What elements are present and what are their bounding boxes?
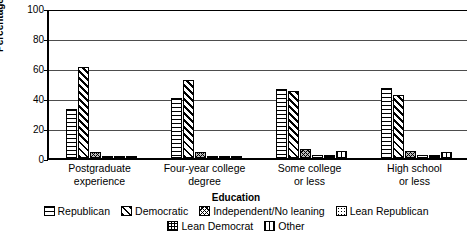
- bar: [126, 156, 137, 158]
- plot-area: [47, 10, 467, 160]
- legend-label: Independent/No leaning: [213, 205, 325, 217]
- legend-label: Lean Democrat: [181, 220, 253, 232]
- y-tick-20: 20: [10, 125, 44, 135]
- legend-item[interactable]: Independent/No leaning: [199, 205, 325, 217]
- x-axis-label-line: High school: [362, 162, 467, 175]
- x-axis-label-line: or less: [362, 175, 467, 188]
- bar-group: [259, 8, 364, 158]
- legend-label: Democratic: [135, 205, 188, 217]
- bar: [231, 156, 242, 158]
- bar-group: [154, 8, 259, 158]
- x-axis-label-line: Postgraduate: [47, 162, 152, 175]
- y-tick-60: 60: [10, 65, 44, 75]
- y-tick-80: 80: [10, 35, 44, 45]
- x-axis-labels: PostgraduateexperienceFour-year colleged…: [47, 162, 467, 194]
- bar: [183, 80, 194, 158]
- legend-swatch-icon: [121, 206, 132, 216]
- chart-container: 100 80 60 40 20 0 Percentage Postgraduat…: [0, 0, 472, 242]
- legend-row-2: Lean DemocratOther: [167, 220, 304, 232]
- x-axis-label: Some collegeor less: [257, 162, 362, 187]
- bar: [207, 156, 218, 158]
- bar: [78, 67, 89, 159]
- bar: [102, 156, 113, 158]
- legend-swatch-icon: [44, 206, 55, 216]
- y-tick-100: 100: [10, 5, 44, 15]
- bar: [90, 152, 101, 158]
- bar: [300, 149, 311, 158]
- legend-item[interactable]: Republican: [44, 205, 111, 217]
- y-tick-0: 0: [10, 155, 44, 165]
- chart-legend: RepublicanDemocraticIndependent/No leani…: [0, 205, 472, 232]
- x-axis-label-line: Four-year college: [152, 162, 257, 175]
- bar: [312, 155, 323, 158]
- bar: [417, 155, 428, 158]
- legend-swatch-icon: [199, 206, 210, 216]
- bar: [171, 98, 182, 158]
- bar: [219, 156, 230, 158]
- x-axis-label-line: or less: [257, 175, 362, 188]
- y-axis-ticks: 100 80 60 40 20 0: [0, 0, 44, 170]
- y-axis-title: Percentage: [0, 0, 5, 52]
- legend-item[interactable]: Lean Democrat: [167, 220, 253, 232]
- bar: [441, 152, 452, 158]
- legend-label: Lean Republican: [350, 205, 429, 217]
- bar-group: [49, 8, 154, 158]
- bar: [429, 155, 440, 158]
- x-axis-label-line: experience: [47, 175, 152, 188]
- bar: [393, 95, 404, 158]
- legend-label: Republican: [58, 205, 111, 217]
- x-axis-title: Education: [0, 192, 472, 203]
- legend-item[interactable]: Lean Republican: [336, 205, 429, 217]
- bar: [66, 109, 77, 159]
- legend-label: Other: [278, 220, 304, 232]
- x-axis-label: High schoolor less: [362, 162, 467, 187]
- y-tick-40: 40: [10, 95, 44, 105]
- legend-swatch-icon: [336, 206, 347, 216]
- bar: [276, 89, 287, 158]
- x-axis-label-line: Some college: [257, 162, 362, 175]
- legend-swatch-icon: [167, 221, 178, 231]
- legend-row-1: RepublicanDemocraticIndependent/No leani…: [44, 205, 429, 217]
- legend-swatch-icon: [264, 221, 275, 231]
- bar: [381, 88, 392, 159]
- bar: [195, 152, 206, 158]
- bar: [288, 91, 299, 159]
- x-axis-label: Postgraduateexperience: [47, 162, 152, 187]
- x-axis-label-line: degree: [152, 175, 257, 188]
- bar: [114, 156, 125, 158]
- bar-group: [364, 8, 469, 158]
- legend-item[interactable]: Other: [264, 220, 304, 232]
- bar: [336, 151, 347, 159]
- bar: [405, 151, 416, 159]
- x-axis-label: Four-year collegedegree: [152, 162, 257, 187]
- bar: [324, 155, 335, 158]
- legend-item[interactable]: Democratic: [121, 205, 188, 217]
